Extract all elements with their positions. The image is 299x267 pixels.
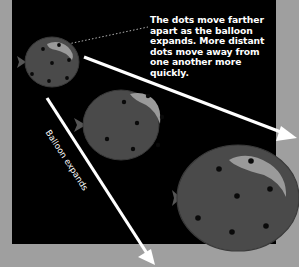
figure: The dots move farther apart as the ballo… [0,0,299,267]
balloon-medium-icon [74,90,164,160]
balloon-large-icon [172,145,299,251]
balloon-small-icon [17,37,79,87]
leader-line [68,27,148,44]
caption-text: The dots move farther apart as the ballo… [150,15,280,79]
